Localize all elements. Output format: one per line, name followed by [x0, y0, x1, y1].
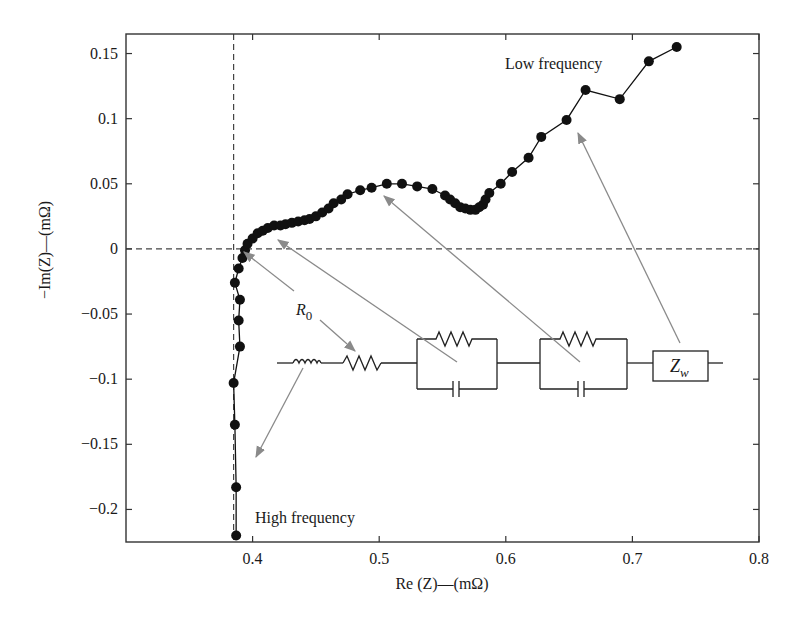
x-tick-label: 0.8 — [749, 550, 769, 567]
data-point — [382, 179, 392, 189]
y-tick-label: 0 — [110, 240, 118, 257]
x-tick-label: 0.5 — [369, 550, 389, 567]
x-tick-label: 0.4 — [243, 550, 263, 567]
r0-label: R0 — [295, 301, 312, 323]
r0-label-main: R — [295, 301, 306, 318]
plot-frame — [126, 34, 759, 542]
data-point — [355, 185, 365, 195]
arrow-inductor-to-plot — [256, 368, 303, 457]
arrow-r0-to-intercept — [244, 252, 294, 291]
x-axis-ticks: 0.40.50.60.70.8 — [243, 34, 769, 567]
data-point — [234, 263, 244, 273]
capacitor-icon — [417, 381, 497, 397]
capacitor-icon — [540, 381, 627, 397]
x-tick-label: 0.6 — [496, 550, 516, 567]
data-point — [229, 378, 239, 388]
y-tick-label: 0.1 — [98, 110, 118, 127]
data-point — [496, 179, 506, 189]
resistor-icon — [417, 332, 497, 346]
data-point — [231, 482, 241, 492]
data-point — [343, 189, 353, 199]
rc-parallel-block-1 — [417, 332, 497, 397]
data-point — [235, 342, 245, 352]
data-point — [615, 94, 625, 104]
data-point — [367, 183, 377, 193]
y-tick-label: −0.2 — [89, 500, 118, 517]
data-series — [229, 42, 682, 540]
data-point — [581, 85, 591, 95]
resistor-r0-icon — [343, 356, 381, 370]
x-axis-label: Re (Z)—(mΩ) — [395, 575, 488, 593]
r0-label-subscript: 0 — [306, 308, 313, 323]
low-frequency-label: Low frequency — [505, 55, 602, 73]
data-point — [230, 278, 240, 288]
y-axis-ticks: 0.150.10.050−0.05−0.1−0.15−0.2 — [81, 45, 759, 518]
data-point — [427, 184, 437, 194]
data-point — [524, 153, 534, 163]
warburg-label: Zw — [670, 356, 689, 380]
data-point — [672, 42, 682, 52]
arrow-r0-to-resistor — [320, 320, 355, 351]
high-frequency-label: High frequency — [255, 509, 355, 527]
data-point — [562, 115, 572, 125]
data-point — [536, 132, 546, 142]
reference-dashed-lines — [126, 34, 759, 542]
y-tick-label: −0.05 — [81, 305, 118, 322]
data-point — [397, 179, 407, 189]
series-line — [234, 47, 677, 535]
y-tick-label: 0.05 — [90, 175, 118, 192]
annotation-arrows — [244, 133, 680, 457]
warburg-label-subscript: w — [680, 365, 689, 380]
data-point — [644, 56, 654, 66]
data-point — [230, 420, 240, 430]
arrow-rc2-to-plot — [384, 196, 580, 362]
data-point — [507, 167, 517, 177]
data-point — [484, 188, 494, 198]
inductor-icon — [293, 360, 321, 364]
rc-parallel-block-2 — [540, 332, 627, 397]
y-axis-label: −Im(Z)—(mΩ) — [36, 201, 54, 299]
x-tick-label: 0.7 — [622, 550, 642, 567]
data-point — [235, 295, 245, 305]
y-tick-label: 0.15 — [90, 45, 118, 62]
y-tick-label: −0.1 — [89, 370, 118, 387]
arrow-warburg-to-plot — [578, 133, 680, 343]
data-point — [231, 530, 241, 540]
data-point — [234, 316, 244, 326]
nyquist-plot-figure: 0.40.50.60.70.8 0.150.10.050−0.05−0.1−0.… — [0, 0, 808, 627]
chart-canvas: 0.40.50.60.70.8 0.150.10.050−0.05−0.1−0.… — [0, 0, 808, 627]
y-tick-label: −0.15 — [81, 435, 118, 452]
data-point — [412, 181, 422, 191]
